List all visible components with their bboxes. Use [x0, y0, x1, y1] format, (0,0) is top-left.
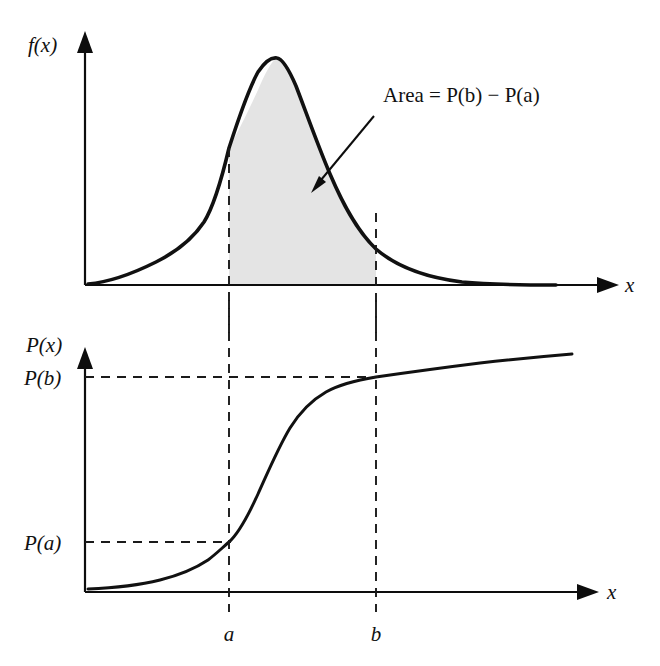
shaded-area-region: [229, 58, 376, 285]
cdf-panel: P(x) x P(b) P(a) a b: [23, 300, 617, 646]
cdf-x-tick-label-b: b: [371, 622, 382, 646]
area-annotation-leader-line: [316, 116, 374, 186]
cdf-x-axis-arrowhead: [577, 584, 599, 600]
cdf-y-axis-label: P(x): [25, 333, 62, 357]
pdf-cdf-figure: f(x) x Area = P(b) − P(a) P(x) x P(b): [0, 0, 660, 666]
cdf-x-tick-label-a: a: [224, 622, 235, 646]
pdf-y-axis-label: f(x): [28, 33, 57, 57]
pdf-x-axis-arrowhead: [597, 277, 619, 293]
pdf-y-axis-arrowhead: [77, 31, 93, 53]
pdf-x-axis-label: x: [624, 273, 635, 297]
cdf-y-tick-label-pb: P(b): [23, 366, 61, 390]
cdf-curve: [88, 354, 572, 589]
cdf-x-axis-label: x: [606, 580, 617, 604]
cdf-y-axis-arrowhead: [77, 347, 93, 369]
pdf-panel: f(x) x Area = P(b) − P(a): [28, 31, 635, 333]
area-annotation-label: Area = P(b) − P(a): [383, 83, 540, 107]
cdf-y-tick-label-pa: P(a): [23, 531, 61, 555]
figure-container: f(x) x Area = P(b) − P(a) P(x) x P(b): [0, 0, 660, 666]
